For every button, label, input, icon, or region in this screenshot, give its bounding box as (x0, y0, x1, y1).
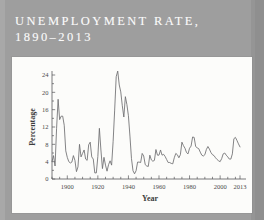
figure-panel: 048121620241900192019401960198020002013Y… (12, 57, 252, 213)
chart-plot-area: 048121620241900192019401960198020002013Y… (12, 57, 252, 213)
x-tick-label: 2000 (214, 183, 227, 190)
x-tick-label: 1940 (122, 183, 135, 190)
y-tick-label: 12 (42, 123, 49, 130)
y-tick-label: 16 (42, 106, 49, 113)
x-axis-title: Year (142, 194, 158, 203)
series-unemployment-rate (52, 71, 240, 174)
page-edge-left (0, 0, 5, 220)
x-tick-label: 1980 (183, 183, 196, 190)
y-axis-title: Percentage (28, 108, 37, 146)
y-tick-label: 4 (45, 158, 49, 165)
y-tick-label: 8 (45, 141, 48, 148)
page-title: UNEMPLOYMENT RATE, 1890–2013 (15, 13, 245, 45)
y-tick-label: 20 (42, 89, 49, 96)
y-tick-label: 24 (42, 71, 49, 78)
x-tick-label: 1920 (91, 183, 104, 190)
page-title-line-1: UNEMPLOYMENT RATE, (15, 13, 245, 29)
page-title-line-2: 1890–2013 (15, 29, 245, 45)
page-root: UNEMPLOYMENT RATE, 1890–2013 04812162024… (0, 0, 264, 220)
unemployment-line-chart: 048121620241900192019401960198020002013Y… (12, 57, 252, 213)
y-tick-label: 0 (45, 175, 48, 182)
x-tick-label: 1960 (152, 183, 165, 190)
x-tick-label: 2013 (234, 183, 247, 190)
page-edge-right (255, 0, 264, 220)
x-tick-label: 1900 (61, 183, 74, 190)
